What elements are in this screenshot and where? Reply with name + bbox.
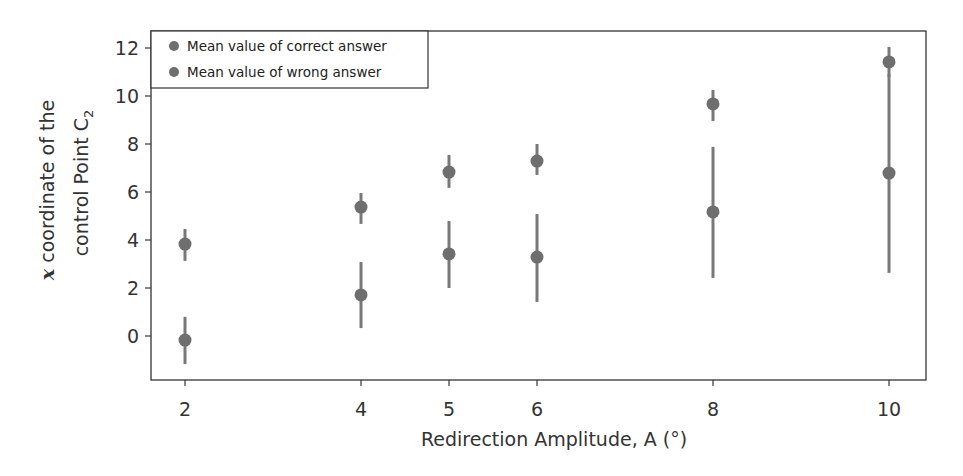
y-tick-label: 0	[127, 325, 139, 347]
legend-marker-icon	[169, 41, 179, 51]
data-point-marker	[179, 334, 192, 347]
data-point-marker	[707, 97, 720, 110]
x-tick-label: 6	[531, 398, 543, 420]
data-point-marker	[443, 247, 456, 260]
x-tick-label: 2	[179, 398, 191, 420]
data-point-marker	[355, 201, 368, 214]
data-point-marker	[531, 155, 544, 168]
y-axis-label-italic-x: x	[36, 268, 58, 281]
x-axis-label: Redirection Amplitude, A (°)	[421, 428, 687, 450]
y-tick-label: 10	[115, 85, 139, 107]
data-point-marker	[443, 166, 456, 179]
legend-item-label: Mean value of wrong answer	[187, 64, 382, 80]
legend-item-label: Mean value of correct answer	[187, 38, 387, 54]
svg-text:x coordinate of the: x coordinate of the	[36, 100, 58, 281]
x-tick-label: 10	[877, 398, 901, 420]
data-point-marker	[355, 288, 368, 301]
data-point-marker	[883, 167, 896, 180]
chart-svg: 2456810024681012 Mean value of correct a…	[0, 0, 963, 476]
x-tick-label: 5	[443, 398, 455, 420]
data-point-marker	[179, 238, 192, 251]
series-wrong-answer	[179, 74, 896, 364]
data-point-marker	[883, 55, 896, 68]
data-series	[179, 47, 896, 364]
y-axis-label-line1: coordinate of the	[36, 100, 58, 269]
x-tick-label: 4	[355, 398, 367, 420]
y-tick-label: 12	[115, 37, 139, 59]
data-point-marker	[531, 251, 544, 264]
y-axis-label-line2-group: control Point C2	[70, 110, 96, 257]
y-tick-label: 8	[127, 133, 139, 155]
legend: Mean value of correct answerMean value o…	[151, 31, 428, 88]
axes-ticks: 2456810024681012	[115, 37, 901, 420]
y-axis-label-subscript: 2	[81, 110, 96, 118]
y-axis-label-line2: control Point C	[70, 118, 92, 256]
svg-text:control Point C2: control Point C2	[70, 110, 96, 257]
y-axis-label: x coordinate of the	[36, 100, 58, 281]
y-tick-label: 2	[127, 277, 139, 299]
legend-marker-icon	[169, 67, 179, 77]
x-tick-label: 8	[707, 398, 719, 420]
y-tick-label: 6	[127, 181, 139, 203]
data-point-marker	[707, 205, 720, 218]
y-tick-label: 4	[127, 229, 139, 251]
